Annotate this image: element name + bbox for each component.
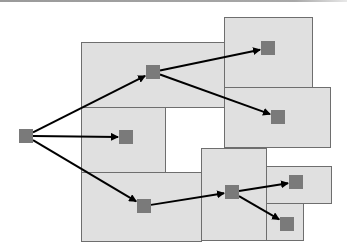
node-n8 (280, 217, 294, 231)
node-n4 (261, 41, 275, 55)
node-n3 (137, 199, 151, 213)
node-root (19, 129, 33, 143)
node-n1 (146, 65, 160, 79)
node-n6 (225, 185, 239, 199)
node-n2 (119, 130, 133, 144)
partition-tree-diagram (0, 0, 347, 252)
region-boxes (82, 18, 332, 242)
node-n7 (289, 175, 303, 189)
edge-root-to-n2 (33, 136, 118, 137)
node-n5 (271, 110, 285, 124)
